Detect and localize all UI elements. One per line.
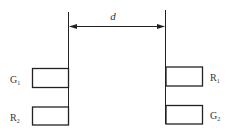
left-box-g1: [33, 69, 69, 88]
right-box-r1: [166, 67, 203, 86]
diagram-canvas: d G1 R2 R1 G2: [0, 0, 235, 137]
arrowhead-right-icon: [157, 24, 165, 29]
label-r2: R2: [10, 112, 20, 124]
label-g2: G2: [210, 110, 220, 122]
label-g1: G1: [10, 74, 20, 86]
distance-dimension-arrow: [69, 24, 165, 29]
distance-label: d: [110, 10, 116, 22]
arrowhead-left-icon: [69, 24, 77, 29]
right-box-g2: [166, 106, 203, 125]
label-r1: R1: [210, 72, 220, 84]
left-box-r2: [33, 107, 69, 125]
